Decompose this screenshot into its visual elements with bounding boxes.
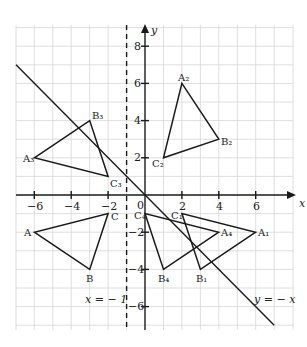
vertex-label-c4: C₄ — [134, 210, 146, 221]
y-tick-label: 2 — [134, 151, 141, 164]
vertex-label-a1: A₁ — [257, 227, 269, 238]
vertex-label-c1: C₁ — [171, 210, 183, 221]
vertex-label-b: B — [86, 273, 93, 284]
y-tick-label: 6 — [134, 77, 141, 90]
x-tick-label: −4 — [64, 200, 80, 213]
vertex-label-b4: B₄ — [158, 273, 169, 284]
x-axis-arrow-icon — [287, 191, 296, 199]
vertex-label-a3: A₃ — [22, 153, 34, 164]
grid — [16, 25, 293, 330]
x-tick-label: 6 — [253, 200, 260, 213]
coordinate-plane-figure: x y 0 −6 −4 −2 2 4 6 8 6 4 2 −2 −4 −6 x … — [0, 0, 307, 347]
y-tick-label: −6 — [128, 300, 144, 313]
x-axis-label: x — [299, 197, 306, 210]
axes — [16, 24, 296, 330]
x-tick-label: 4 — [216, 200, 223, 213]
y-axis-label: y — [150, 24, 158, 37]
mirror-line-y-minus-x-label: y = − x — [253, 293, 296, 306]
vertex-label-b2: B₂ — [221, 136, 232, 147]
y-tick-label: −2 — [128, 226, 144, 239]
y-tick-label: 4 — [134, 114, 141, 127]
y-axis-arrow-icon — [141, 24, 149, 33]
vertex-label-a2: A₂ — [177, 72, 189, 83]
vertex-label-c3: C₃ — [110, 178, 122, 189]
vertex-label-c: C — [111, 211, 119, 222]
vertex-label-b1: B₁ — [196, 273, 207, 284]
y-tick-label: −4 — [128, 263, 144, 276]
y-tick-label: 8 — [134, 40, 141, 53]
x-tick-label: −6 — [27, 200, 43, 213]
mirror-line-x-minus-1-label: x = − 1 — [85, 293, 127, 306]
vertex-label-c2: C₂ — [152, 158, 164, 169]
vertex-label-b3: B₃ — [92, 110, 103, 121]
vertex-label-a: A — [23, 227, 32, 238]
vertex-label-a4: A₄ — [220, 227, 232, 238]
